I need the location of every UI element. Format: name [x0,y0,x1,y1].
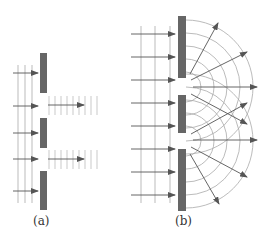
incoming-wavefronts-b [141,26,170,203]
incoming-arrows-b [131,34,175,195]
outgoing-wavefronts-a-slit2 [49,150,97,169]
incoming-wavefronts-a [18,65,32,203]
diffraction-figure [0,0,274,242]
rays-b-slit1 [190,23,257,124]
panel-label-b: (b) [175,214,192,228]
rays-b-slit2 [190,103,257,204]
panel-a [13,53,97,210]
circular-wavefronts-b-slit2 [186,74,253,208]
outgoing-wavefronts-a-slit1 [49,96,97,115]
barrier-b [178,16,186,211]
barrier-a [40,53,47,210]
incoming-arrows-a [13,73,38,191]
panel-b [131,16,257,211]
panel-label-a: (a) [33,214,50,228]
